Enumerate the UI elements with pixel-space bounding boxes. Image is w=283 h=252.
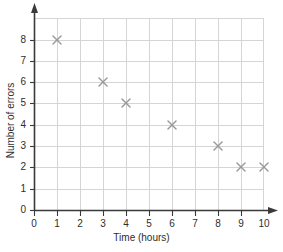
x-tick-label-10: 10: [254, 219, 274, 229]
x-tick-label-1: 1: [47, 219, 67, 229]
x-tick-label-8: 8: [208, 219, 228, 229]
vertical-gridlines: [35, 18, 264, 210]
x-tick-label-0: 0: [24, 219, 44, 229]
x-tick-label-7: 7: [185, 219, 205, 229]
x-tick-label-6: 6: [162, 219, 182, 229]
scatter-chart: 8 7 6 5 4 3 2 1 0 0 1 2 3 4 5 6 7 8 9 10…: [0, 0, 283, 252]
plot-area: [0, 0, 283, 252]
y-axis-title: Number of errors: [5, 61, 16, 181]
y-tick-label-1: 1: [12, 184, 26, 194]
x-axis-title: Time (hours): [0, 232, 283, 243]
x-tick-label-9: 9: [231, 219, 251, 229]
y-tick-label-8: 8: [12, 35, 26, 45]
y-tick-label-0: 0: [12, 205, 26, 215]
x-tick-label-5: 5: [139, 219, 159, 229]
x-tick-label-3: 3: [93, 219, 113, 229]
x-tick-label-2: 2: [70, 219, 90, 229]
x-tick-label-4: 4: [116, 219, 136, 229]
horizontal-gridlines: [34, 19, 263, 190]
y-axis: [31, 3, 38, 211]
